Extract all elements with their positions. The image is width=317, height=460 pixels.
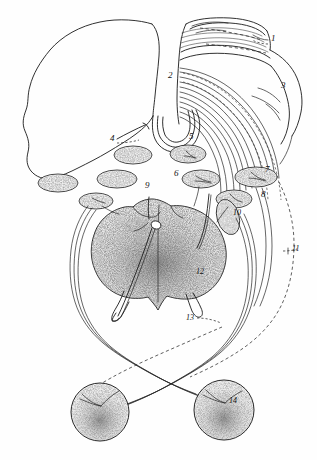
anatomical-diagram: 1 2 3 4 5 6 7 8 9 10 11 12 13 14 [0, 0, 317, 460]
ganglion-oval [182, 170, 220, 188]
figure-label-11: 11 [292, 244, 299, 253]
figure-label-5: 5 [189, 131, 194, 141]
ganglion-oval [97, 170, 137, 188]
ganglion-oval [114, 146, 152, 164]
figure-label-1: 1 [271, 33, 276, 43]
figure-label-4: 4 [110, 133, 115, 143]
figure-label-14: 14 [229, 396, 237, 405]
figure-label-7: 7 [265, 164, 270, 174]
figure-label-13: 13 [186, 313, 194, 322]
ganglion-oval [79, 193, 113, 209]
figure-label-9: 9 [145, 180, 150, 190]
figure-label-8: 8 [261, 189, 266, 199]
ganglion-oval [170, 145, 206, 163]
lower-sphere-left [71, 383, 129, 442]
lower-sphere-right [194, 380, 254, 441]
ganglion-oval [38, 174, 78, 192]
figure-label-12: 12 [196, 267, 204, 276]
ganglion-oval [235, 167, 277, 187]
figure-container: 1 2 3 4 5 6 7 8 9 10 11 12 13 14 [0, 0, 317, 460]
figure-label-2: 2 [168, 70, 173, 80]
figure-label-3: 3 [280, 80, 286, 90]
figure-label-10: 10 [233, 208, 241, 217]
figure-label-6: 6 [174, 168, 179, 178]
